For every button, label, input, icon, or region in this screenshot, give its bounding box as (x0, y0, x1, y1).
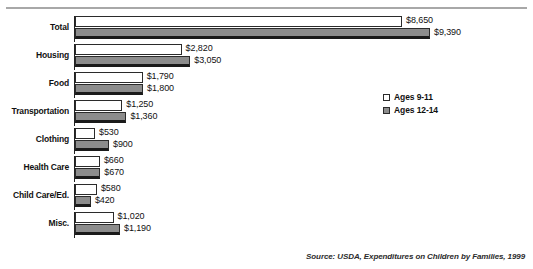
bar-ages-9-11 (75, 184, 97, 195)
bar-ages-12-14 (75, 196, 91, 207)
category-label-clothing: Clothing (0, 134, 69, 144)
value-label-ages-9-11: $1,020 (118, 211, 145, 221)
category-label-housing: Housing (0, 50, 69, 60)
bar-ages-12-14 (75, 56, 190, 67)
bar-ages-12-14 (75, 140, 109, 151)
bar-ages-12-14 (75, 224, 120, 235)
chart-row: Misc.$1,020$1,190 (0, 211, 533, 239)
legend-swatch-icon-ages-9-11 (383, 94, 390, 101)
chart-row: Health Care$660$670 (0, 155, 533, 183)
chart-title-cropped (6, 0, 406, 3)
value-label-ages-12-14: $420 (95, 195, 115, 205)
value-label-ages-9-11: $530 (99, 127, 119, 137)
value-label-ages-9-11: $580 (101, 183, 121, 193)
bar-ages-12-14 (75, 84, 143, 95)
bar-ages-12-14 (75, 112, 126, 123)
bar-ages-12-14 (75, 28, 430, 39)
bar-ages-9-11 (75, 100, 122, 111)
value-label-ages-12-14: $3,050 (194, 55, 221, 65)
bar-ages-12-14 (75, 168, 100, 179)
value-label-ages-12-14: $9,390 (434, 27, 461, 37)
bar-ages-9-11 (75, 156, 100, 167)
value-label-ages-9-11: $1,250 (126, 99, 153, 109)
bar-ages-9-11 (75, 44, 182, 55)
header-divider (6, 7, 527, 9)
legend-label-ages-9-11: Ages 9-11 (394, 92, 433, 102)
category-label-food: Food (0, 78, 69, 88)
chart-row: Child Care/Ed.$580$420 (0, 183, 533, 211)
expenditures-bar-chart: Total$8,650$9,390Housing$2,820$3,050Food… (0, 0, 533, 269)
value-label-ages-12-14: $1,800 (147, 83, 174, 93)
value-label-ages-12-14: $1,190 (124, 223, 151, 233)
source-note: Source: USDA, Expenditures on Children b… (306, 252, 525, 261)
value-label-ages-9-11: $1,790 (147, 71, 174, 81)
chart-row: Housing$2,820$3,050 (0, 43, 533, 71)
bar-ages-9-11 (75, 72, 143, 83)
chart-row: Total$8,650$9,390 (0, 15, 533, 43)
category-label-transportation: Transportation (0, 106, 69, 116)
plot-area: Total$8,650$9,390Housing$2,820$3,050Food… (0, 15, 533, 243)
chart-row: Transportation$1,250$1,360 (0, 99, 533, 127)
value-label-ages-12-14: $900 (113, 139, 133, 149)
value-label-ages-12-14: $1,360 (130, 111, 157, 121)
category-label-child-care-ed: Child Care/Ed. (0, 190, 69, 200)
bar-ages-9-11 (75, 212, 114, 223)
legend-swatch-icon-ages-12-14 (383, 107, 390, 114)
value-label-ages-9-11: $8,650 (406, 15, 433, 25)
chart-row: Food$1,790$1,800 (0, 71, 533, 99)
legend-label-ages-12-14: Ages 12-14 (394, 105, 438, 115)
category-label-total: Total (0, 22, 69, 32)
value-label-ages-12-14: $670 (104, 167, 124, 177)
value-label-ages-9-11: $660 (104, 155, 124, 165)
value-label-ages-9-11: $2,820 (186, 43, 213, 53)
bar-ages-9-11 (75, 16, 402, 27)
bar-ages-9-11 (75, 128, 95, 139)
chart-row: Clothing$530$900 (0, 127, 533, 155)
category-label-misc: Misc. (0, 218, 69, 228)
category-label-health-care: Health Care (0, 162, 69, 172)
